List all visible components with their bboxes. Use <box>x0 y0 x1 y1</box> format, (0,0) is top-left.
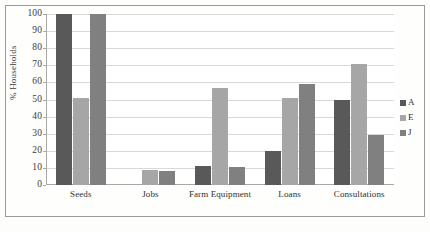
y-axis-tick-label: 10 <box>2 163 42 173</box>
x-axis-tick-label: Seeds <box>46 189 116 199</box>
y-axis-tick-mark <box>43 185 46 186</box>
x-axis-tick-label: Jobs <box>116 189 186 199</box>
bar <box>368 135 384 185</box>
chart-legend: AEJ <box>400 98 415 137</box>
bar-group <box>255 14 325 185</box>
y-axis-tick-label: 70 <box>2 61 42 71</box>
bar <box>159 171 175 185</box>
x-axis-tick-label: Farm Equipment <box>185 189 255 199</box>
bar <box>142 170 158 185</box>
bar <box>334 100 350 186</box>
bar <box>56 14 72 185</box>
bar-group <box>46 14 116 185</box>
legend-item-label: J <box>408 128 412 137</box>
bar-group <box>324 14 394 185</box>
y-axis-tick-label: 90 <box>2 26 42 36</box>
legend-item[interactable]: A <box>400 98 415 107</box>
bar <box>351 64 367 185</box>
bar <box>90 14 106 185</box>
plot-area <box>46 14 394 185</box>
y-axis-tick-label: 80 <box>2 43 42 53</box>
x-axis-tick-label: Loans <box>255 189 325 199</box>
bar <box>212 88 228 185</box>
bar-group <box>116 14 186 185</box>
legend-item-label: A <box>408 98 415 107</box>
x-axis-tick-label: Consultations <box>324 189 394 199</box>
y-axis-tick-label: 60 <box>2 78 42 88</box>
bar-group <box>185 14 255 185</box>
y-axis-tick-label: 0 <box>2 180 42 190</box>
bar <box>265 151 281 185</box>
y-axis-tick-label: 40 <box>2 112 42 122</box>
legend-item[interactable]: E <box>400 113 415 122</box>
bar <box>229 167 245 185</box>
y-axis-tick-label: 20 <box>2 146 42 156</box>
bar <box>73 98 89 185</box>
legend-swatch-icon <box>400 130 406 136</box>
y-axis-tick-label: 100 <box>2 9 42 19</box>
y-axis-label: % Households <box>8 45 18 100</box>
legend-swatch-icon <box>400 100 406 106</box>
legend-swatch-icon <box>400 115 406 121</box>
y-axis-tick-label: 30 <box>2 129 42 139</box>
bar <box>282 98 298 185</box>
bar <box>195 166 211 185</box>
legend-item-label: E <box>408 113 414 122</box>
bar <box>299 84 315 185</box>
y-axis-tick-label: 50 <box>2 95 42 105</box>
legend-item[interactable]: J <box>400 128 415 137</box>
bar-chart-figure: % Households 0102030405060708090100 Seed… <box>0 0 430 232</box>
